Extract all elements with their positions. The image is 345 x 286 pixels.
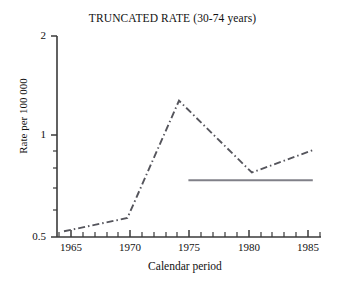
- y-tick-label-2: 2: [16, 29, 46, 41]
- chart-figure: TRUNCATED RATE (30-74 years) Rate per 10…: [0, 0, 345, 286]
- x-tick-label-1970: 1970: [106, 241, 154, 253]
- chart-title: TRUNCATED RATE (30-74 years): [0, 12, 345, 24]
- y-axis-major-ticks: [51, 36, 57, 237]
- x-tick-label-1975: 1975: [165, 241, 213, 253]
- x-tick-label-1980: 1980: [225, 241, 273, 253]
- x-tick-label-1985: 1985: [284, 241, 332, 253]
- y-tick-label-0-5: 0.5: [10, 230, 46, 242]
- series-observed-rate: [64, 101, 313, 232]
- x-tick-label-1965: 1965: [47, 241, 95, 253]
- y-axis-title: Rate per 100 000: [17, 46, 29, 186]
- y-tick-label-1: 1: [16, 128, 46, 140]
- x-axis-title: Calendar period: [40, 260, 330, 272]
